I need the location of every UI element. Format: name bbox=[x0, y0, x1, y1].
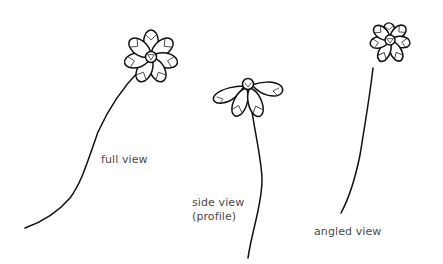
stem-side-view bbox=[248, 98, 262, 258]
label-angled-view: angled view bbox=[314, 225, 381, 239]
flower-side-view bbox=[213, 79, 282, 259]
stem-angled-view bbox=[341, 68, 373, 213]
label-full-view: full view bbox=[101, 153, 148, 167]
flower-angled-view bbox=[341, 22, 411, 213]
flower-center bbox=[146, 52, 157, 63]
flower-center bbox=[243, 79, 254, 90]
label-side-view: side view bbox=[192, 196, 244, 210]
label-side-view-profile: (profile) bbox=[192, 210, 236, 224]
stem-full-view bbox=[25, 70, 140, 228]
flower-views-diagram: full view side view (profile) angled vie… bbox=[0, 0, 443, 264]
flower-full-view bbox=[25, 30, 179, 228]
